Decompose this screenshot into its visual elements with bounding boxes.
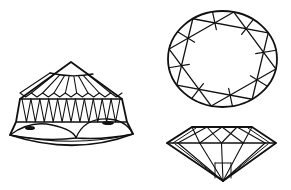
pavilion-triangle — [40, 99, 49, 122]
domed-gem-side-view — [10, 62, 133, 145]
pavilion-triangle — [31, 99, 40, 122]
pavilion-triangle — [49, 99, 58, 122]
inclusion-mark — [25, 126, 35, 130]
upper-girdle-facet-line — [169, 64, 189, 67]
pavilion-facet-line — [223, 143, 243, 181]
upper-girdle-facet-line — [250, 76, 267, 86]
brilliant-side-profile — [167, 127, 276, 181]
crown-facet — [43, 75, 60, 97]
inclusion-mark — [102, 121, 114, 125]
star-square-a — [169, 12, 276, 106]
star-square-b — [177, 19, 268, 100]
upper-girdle-facet-line — [256, 50, 276, 53]
upper-girdle-facet-line — [213, 12, 217, 30]
crown-facet-line — [167, 127, 192, 143]
crown-facet — [20, 73, 50, 97]
pavilion-facet-line — [222, 143, 224, 181]
upper-girdle-facet-line — [192, 84, 204, 99]
pavilion-triangle — [22, 99, 31, 122]
upper-girdle-facet-line — [178, 32, 195, 42]
upper-girdle-facet-line — [229, 88, 233, 106]
girdle-outline — [168, 11, 277, 107]
oval-brilliant-top-view — [168, 11, 277, 107]
crown-facet-line — [222, 127, 238, 143]
crown-facet — [65, 76, 76, 97]
pavilion-triangle — [58, 99, 67, 122]
pavilion-facet-line — [200, 143, 223, 181]
upper-girdle-facet-line — [242, 19, 254, 34]
pavilion-triangle — [67, 99, 76, 122]
pavilion-triangle — [75, 99, 84, 122]
pavilion-triangle — [84, 99, 93, 122]
gem-illustration — [0, 0, 291, 190]
pavilion-triangle — [111, 99, 120, 122]
